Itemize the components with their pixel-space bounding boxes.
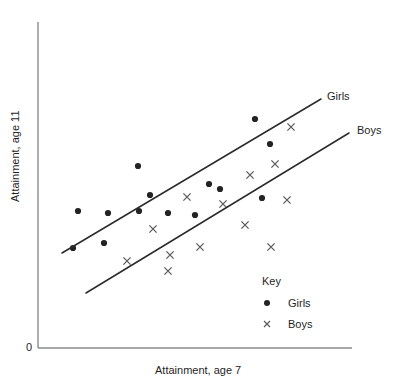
data-point-boys [183,193,190,200]
data-point-boys [283,196,290,203]
data-point-boys [166,251,173,258]
data-point-boys [267,243,274,250]
x-axis-title: Attainment, age 7 [155,365,241,376]
data-point-girls [267,141,273,147]
trend-lines-layer [62,99,349,293]
data-point-girls [135,163,141,169]
filled-circle-icon [262,297,280,309]
data-point-girls [259,195,265,201]
data-point-girls [75,208,81,214]
legend-title: Key [262,276,354,287]
legend-item-girls: Girls [262,297,354,309]
data-point-girls [105,210,111,216]
trend-line-boys [86,133,349,293]
girls-trend-line-label: Girls [327,91,350,102]
data-point-boys [287,123,294,130]
legend-label-boys: Boys [288,318,312,330]
data-point-boys [271,160,278,167]
boys-trend-line-label: Boys [357,125,381,136]
data-point-boys [164,267,171,274]
x-cross-icon [262,318,280,330]
scatter-plot-figure: Attainment, age 11 Attainment, age 7 0 G… [0,0,397,389]
origin-tick-label: 0 [26,342,32,353]
data-point-girls [192,212,198,218]
data-point-girls [165,210,171,216]
legend-item-boys: Boys [262,318,354,330]
data-point-boys [149,225,156,232]
data-point-girls [206,181,212,187]
data-series-layer [70,116,295,275]
trend-line-girls [62,99,321,253]
data-point-boys [196,243,203,250]
data-point-girls [252,116,258,122]
data-point-boys [123,257,130,264]
data-point-girls [217,186,223,192]
legend: Key Girls Boys [262,276,354,339]
data-point-boys [241,221,248,228]
data-point-girls [101,240,107,246]
y-axis-title: Attainment, age 11 [10,110,21,202]
data-point-boys [219,200,226,207]
data-point-girls [147,192,153,198]
legend-label-girls: Girls [288,297,311,309]
data-point-boys [246,171,253,178]
